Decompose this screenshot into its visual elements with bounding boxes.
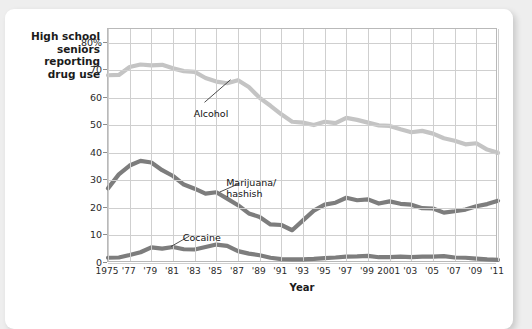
y-tick-mark [103,207,107,208]
x-axis-title: Year [107,282,497,293]
x-tick-label: 2001 [377,266,400,276]
y-tick-label: 10 [68,229,102,240]
x-tick-label: '93 [295,266,309,276]
series-label: Cocaine [183,232,221,243]
y-tick-label: 30 [68,174,102,185]
x-tick-label: '87 [230,266,244,276]
x-tick-label: '09 [468,266,482,276]
x-tick-label: '11 [490,266,504,276]
y-tick-label: 60 [68,91,102,102]
x-tick-label: 1975 [96,266,119,276]
x-tick-label: '95 [317,266,331,276]
series-label: Marijuana/ hashish [226,177,276,199]
x-tick-label: '91 [273,266,287,276]
y-tick-label: 20 [68,201,102,212]
series-label: Alcohol [194,108,229,119]
x-tick-label: '81 [165,266,179,276]
y-tick-mark [103,152,107,153]
x-tick-label: '89 [252,266,266,276]
y-tick-mark [103,234,107,235]
y-tick-mark [103,124,107,125]
y-tick-label: 80% [68,36,102,47]
y-tick-mark [103,97,107,98]
x-tick-label: '03 [403,266,417,276]
y-tick-mark [103,179,107,180]
y-tick-label: 40 [68,146,102,157]
y-tick-mark [103,69,107,70]
y-tick-label: 70 [68,64,102,75]
y-tick-label: 50 [68,119,102,130]
x-tick-label: '85 [208,266,222,276]
x-tick-label: '05 [425,266,439,276]
y-tick-mark [103,262,107,263]
x-tick-label: '79 [143,266,157,276]
x-tick-label: '07 [447,266,461,276]
x-tick-label: '77 [122,266,136,276]
x-tick-label: '83 [187,266,201,276]
x-tick-label: '97 [338,266,352,276]
y-tick-mark [103,42,107,43]
x-tick-label: '99 [360,266,374,276]
leader-line [205,80,231,103]
